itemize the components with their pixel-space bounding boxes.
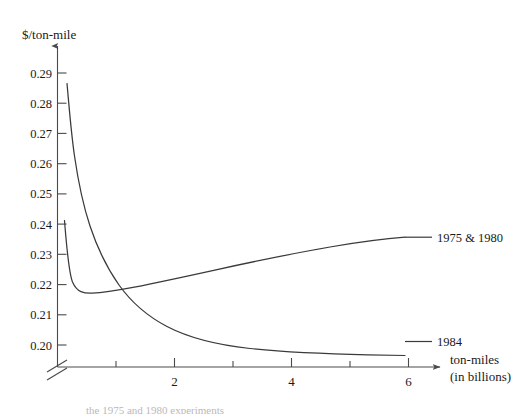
line-chart-svg: 0.20 0.21 0.22 0.23 0.24 0.25 0.26 0.27 … (0, 0, 525, 414)
y-tick-label-8: 0.28 (30, 97, 52, 111)
y-tick-label-9: 0.29 (30, 67, 52, 81)
y-tick-label-1: 0.21 (30, 308, 52, 322)
x-tick-label-1: 4 (288, 374, 295, 389)
cut-off-caption: the 1975 and 1980 experiments (0, 405, 525, 414)
x-axis-title-line2: (in billions) (450, 369, 511, 384)
y-tick-label-7: 0.27 (30, 127, 52, 141)
y-tick-label-0: 0.20 (30, 339, 52, 353)
x-tick-label-2: 6 (405, 374, 412, 389)
y-tick-label-5: 0.25 (30, 187, 52, 201)
chart-container: 0.20 0.21 0.22 0.23 0.24 0.25 0.26 0.27 … (0, 0, 525, 414)
y-tick-label-3: 0.23 (30, 248, 52, 262)
y-axis-title: $/ton-mile (22, 27, 76, 42)
series-label-1975-1980: 1975 & 1980 (437, 231, 503, 245)
series-line-1984 (67, 84, 405, 356)
y-tick-label-2: 0.22 (30, 278, 52, 292)
series-line-1975-1980 (65, 221, 406, 294)
y-tick-label-4: 0.24 (30, 218, 53, 232)
series-label-1984: 1984 (437, 335, 463, 349)
y-axis-ticks (58, 73, 67, 345)
x-axis-ticks (116, 358, 409, 367)
y-tick-label-6: 0.26 (30, 157, 52, 171)
x-axis-title-line1: ton-miles (450, 352, 499, 367)
x-tick-label-0: 2 (171, 374, 178, 389)
